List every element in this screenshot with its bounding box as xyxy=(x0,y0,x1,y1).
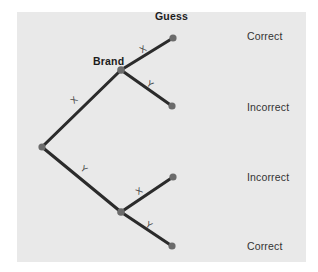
outcome-label-1: Correct xyxy=(247,30,282,42)
tree-edges xyxy=(42,38,173,246)
node-brand xyxy=(117,66,125,74)
figure-canvas: Guess Brand X Y X Y X Y Correct Incorrec… xyxy=(0,0,318,272)
node-terminal-3 xyxy=(169,173,176,180)
node-terminal-1 xyxy=(169,34,176,41)
edge-root-lower xyxy=(42,147,121,212)
edge-root-brand xyxy=(42,70,121,147)
outcome-label-4: Correct xyxy=(247,240,282,252)
node-terminal-2 xyxy=(168,102,175,109)
edge-brand-correct1 xyxy=(121,38,173,70)
node-terminal-4 xyxy=(168,242,175,249)
edge-lower-incorrect2 xyxy=(121,177,173,212)
outcome-label-2: Incorrect xyxy=(247,101,289,113)
node-label-brand: Brand xyxy=(93,55,124,67)
node-lower xyxy=(117,208,125,216)
node-root xyxy=(38,143,45,150)
outcome-label-3: Incorrect xyxy=(247,171,289,183)
node-label-guess: Guess xyxy=(155,10,188,22)
